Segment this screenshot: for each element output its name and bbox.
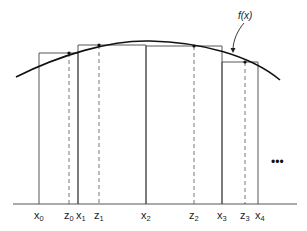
sample-point-dot-3 (243, 60, 246, 63)
sample-dashed-lines (69, 45, 245, 204)
x-label-2: x2 (141, 209, 151, 223)
sample-point-dot-1 (97, 43, 100, 46)
z-label-0: z0 (64, 209, 74, 223)
arrow-head-icon (231, 48, 236, 53)
axis-labels: x0x1x2x3x4z0z1z2z3 (34, 209, 265, 223)
z-label-1: z1 (94, 209, 104, 223)
x-label-0: x0 (34, 209, 44, 223)
x-label-3: x3 (217, 209, 227, 223)
approximation-rectangle-2 (146, 46, 222, 204)
diagram-canvas: x0x1x2x3x4z0z1z2z3 f(x) ••• (0, 0, 307, 231)
approximation-rectangle-1 (78, 45, 146, 204)
sample-point-dot-0 (67, 51, 70, 54)
z-label-2: z2 (189, 209, 199, 223)
function-label-arrow (233, 23, 244, 50)
rectangles-group (39, 45, 258, 204)
z-label-3: z3 (240, 209, 250, 223)
function-label: f(x) (238, 10, 252, 21)
function-curve (16, 41, 280, 80)
sample-point-dot-2 (192, 44, 195, 47)
x-label-1: x1 (76, 209, 86, 223)
x-label-4: x4 (255, 209, 265, 223)
approximation-rectangle-0 (39, 53, 78, 204)
riemann-sum-diagram: x0x1x2x3x4z0z1z2z3 f(x) ••• (0, 0, 307, 231)
ellipsis-continuation: ••• (271, 155, 284, 169)
approximation-rectangle-3 (222, 62, 258, 204)
